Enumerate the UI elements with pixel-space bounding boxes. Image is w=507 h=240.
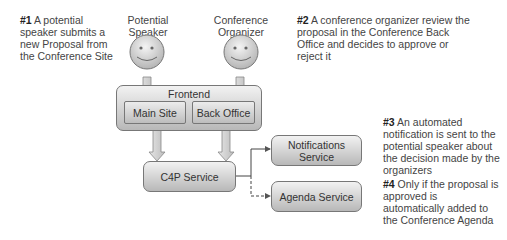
frontend-title: Frontend [116,88,262,100]
main-site-box: Main Site [124,101,186,124]
back-office-label: Back Office [197,107,251,119]
c4p-service-box: C4P Service [143,161,236,192]
smiley-icon-speaker [130,35,164,69]
arrow-back-office-to-c4p [218,129,234,161]
agenda-service-box: Agenda Service [271,181,362,212]
smiley-icon-organizer [224,35,258,69]
back-office-box: Back Office [192,101,255,124]
c4p-service-label: C4P Service [160,171,218,183]
notifications-service-box: Notifications Service [271,135,362,166]
notifications-service-line2: Service [299,151,334,163]
arrow-main-site-to-c4p [149,129,165,161]
agenda-service-label: Agenda Service [279,191,353,203]
arrow-c4p-to-notifications [236,149,270,176]
notifications-service-line1: Notifications [288,139,345,151]
arrow-c4p-to-agenda [251,176,270,196]
main-site-label: Main Site [133,107,177,119]
